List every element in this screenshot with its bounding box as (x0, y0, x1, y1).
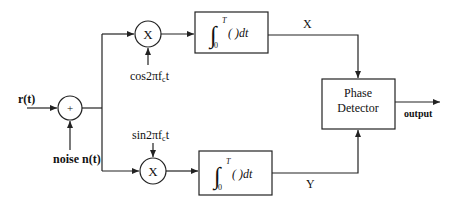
signal-label: r(t) (18, 92, 35, 106)
cos-carrier-label: cos2πfct (130, 69, 170, 84)
x-signal-label: X (303, 17, 312, 31)
lower-limit: 0 (218, 183, 222, 192)
lower-limit: 0 (214, 41, 218, 50)
upper-multiplier-symbol: X (143, 27, 153, 42)
phase-detector-line1: Phase (344, 86, 372, 100)
y-signal-line (272, 130, 358, 173)
lower-multiplier-symbol: X (148, 164, 158, 179)
block-diagram: r(t) noise n(t) + X X cos2πfct sin2πfct … (0, 0, 459, 205)
y-signal-label: Y (306, 177, 315, 191)
integrand: ( )dt (228, 26, 249, 40)
phase-detector-line2: Detector (337, 101, 378, 115)
noise-label: noise n(t) (53, 152, 101, 166)
upper-integrator-expression: ∫ T 0 ( )dt (208, 16, 249, 50)
output-label: output (404, 108, 433, 119)
integrand: ( )dt (232, 167, 253, 181)
upper-limit: T (222, 16, 227, 25)
x-signal-line (268, 35, 358, 78)
adder-symbol: + (67, 102, 73, 114)
lower-integrator-expression: ∫ T 0 ( )dt (212, 157, 253, 192)
upper-limit: T (226, 157, 231, 166)
sin-carrier-label: sin2πfct (132, 128, 170, 143)
